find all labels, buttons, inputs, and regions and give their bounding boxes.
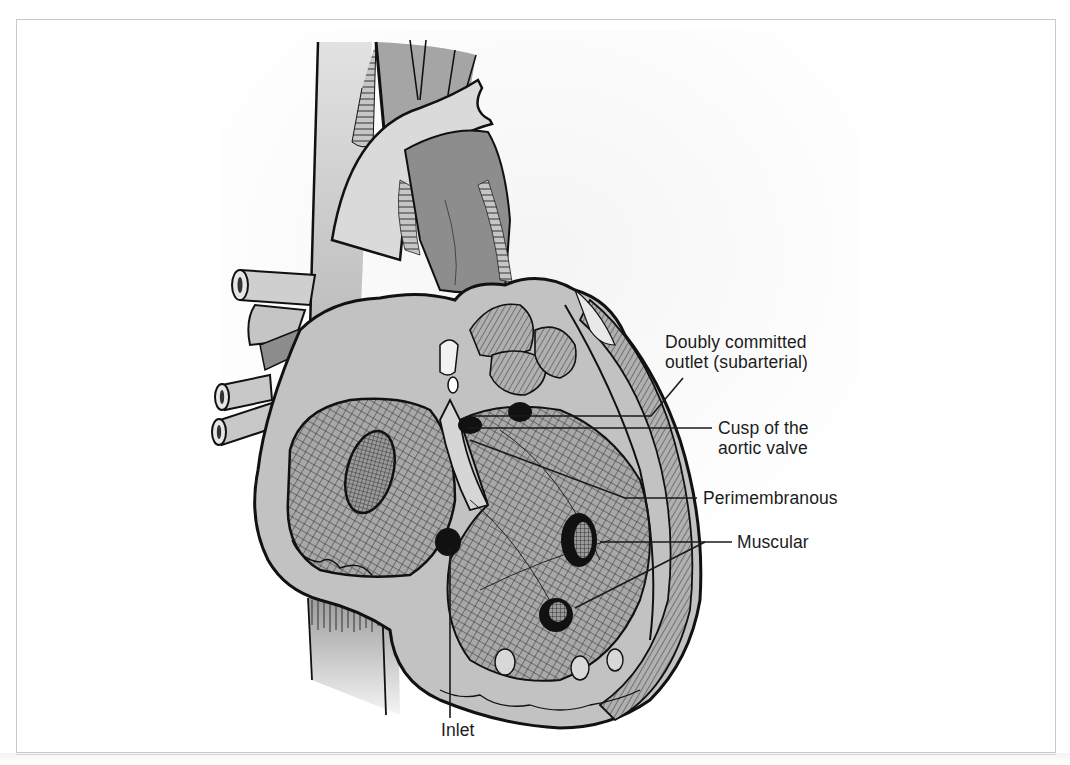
outlet-defect — [508, 402, 532, 422]
right-atrium — [288, 399, 455, 577]
label-doubly-committed-line2: outlet (subarterial) — [665, 352, 808, 372]
label-inlet: Inlet — [441, 720, 475, 740]
inlet-defect — [435, 528, 461, 556]
page-bottom-rule — [16, 754, 1056, 755]
label-muscular: Muscular — [737, 532, 809, 552]
label-doubly-committed-line1: Doubly committed — [665, 332, 807, 352]
label-cusp-line2: aortic valve — [718, 438, 808, 458]
heart-illustration — [0, 0, 1070, 765]
label-cusp-line1: Cusp of the — [718, 418, 809, 438]
perimembranous-defect — [458, 416, 482, 434]
label-perimembranous: Perimembranous — [703, 488, 838, 508]
